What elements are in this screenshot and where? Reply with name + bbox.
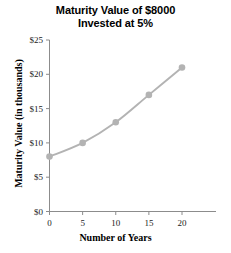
chart-figure: Maturity Value of $8000 Invested at 5% $…	[0, 0, 231, 253]
x-axis-tick-label: 15	[144, 218, 153, 228]
x-axis-ticks	[50, 212, 183, 216]
x-axis-title: Number of Years	[0, 232, 231, 243]
data-point-marker	[146, 92, 153, 99]
data-point-markers	[46, 64, 185, 160]
data-point-marker	[79, 140, 86, 147]
x-axis-tick-label: 20	[178, 218, 187, 228]
y-axis-ticks	[46, 40, 50, 212]
x-axis-tick-label: 0	[47, 218, 52, 228]
data-point-marker	[179, 64, 186, 71]
data-point-marker	[112, 119, 119, 126]
y-axis-title: Maturity Value (in thousands)	[13, 44, 24, 204]
data-point-marker	[46, 153, 53, 160]
data-series-line	[50, 67, 183, 156]
x-axis-tick-label: 10	[111, 218, 120, 228]
axes	[49, 40, 216, 212]
y-axis-tick-label: $0	[10, 207, 43, 217]
x-axis-tick-label: 5	[80, 218, 85, 228]
